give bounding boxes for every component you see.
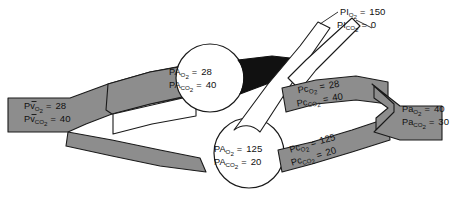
venous-line2-eq: = <box>50 114 55 124</box>
alv-top-line2-eq: = <box>196 80 201 90</box>
alv-top-line1-eq: = <box>192 67 197 77</box>
alv-bot-line1-symbol: PA <box>214 144 226 154</box>
alv-bot-line1-value: 125 <box>246 143 262 154</box>
figure-canvas: PIO2=150 PICO2=0 PvO2=28 PvCO2=40 PAO2=2… <box>0 0 450 212</box>
alv-bot-line2-eq: = <box>241 157 246 167</box>
alv-bot-line2-sub: CO <box>226 161 235 168</box>
vq-mismatch-diagram: PIO2=150 PICO2=0 PvO2=28 PvCO2=40 PAO2=2… <box>0 0 450 212</box>
venous-line1-sub2: 2 <box>40 107 44 114</box>
inspired-line1-sub2: 2 <box>354 13 358 20</box>
art-line2-value: 30 <box>438 116 449 127</box>
cap-top-line2-value: 40 <box>331 90 343 103</box>
inspired-line1-value: 150 <box>369 6 385 17</box>
alv-bot-line2-sub2: 2 <box>235 163 239 170</box>
art-line2-eq: = <box>429 117 434 127</box>
art-line1-sub2: 2 <box>418 110 422 117</box>
alv-top-line2-sub2: 2 <box>190 86 194 93</box>
inspired-leader-line-1 <box>320 12 338 24</box>
venous-line2-sub: CO <box>35 118 44 125</box>
inspired-line1-symbol: PI <box>340 7 349 17</box>
alv-top-line1-symbol: PA <box>169 67 181 77</box>
venous-line1-eq: = <box>46 101 51 111</box>
venous-line1-value: 28 <box>55 100 66 111</box>
inspired-line2-symbol: PI <box>337 20 346 30</box>
alv-top-line1-value: 28 <box>201 66 212 77</box>
venous-line2-symbol: Pv <box>24 114 35 124</box>
inspired-line1-eq: = <box>360 7 365 17</box>
art-line1-value: 40 <box>434 103 445 114</box>
art-line2-sub2: 2 <box>423 123 427 130</box>
alv-bot-line1-eq: = <box>237 144 242 154</box>
art-line2-sub: CO <box>413 121 422 128</box>
inspired-line2-sub2: 2 <box>355 26 359 33</box>
alv-bot-line2-value: 20 <box>251 156 262 167</box>
art-line1-eq: = <box>425 104 430 114</box>
venous-line1-symbol: Pv <box>24 101 35 111</box>
alv-top-line1-sub2: 2 <box>185 73 189 80</box>
alv-bot-line1-sub2: 2 <box>230 150 234 157</box>
venous-line2-sub2: 2 <box>44 120 48 127</box>
lower-capillary-limb <box>66 132 206 172</box>
cap-top-line1-value: 28 <box>328 78 340 91</box>
label-inspired-gas: PIO2=150 PICO2=0 <box>337 6 385 33</box>
inspired-line2-sub: CO <box>346 24 355 31</box>
inspired-line2-eq: = <box>361 20 366 30</box>
svg-text:PIO2=150: PIO2=150 <box>340 6 385 20</box>
alv-bot-line2-symbol: PA <box>214 157 226 167</box>
venous-line2-value: 40 <box>60 113 71 124</box>
inspired-line2-value: 0 <box>371 19 376 30</box>
alv-top-line2-symbol: PA <box>169 80 181 90</box>
alv-top-line2-sub: CO <box>181 84 190 91</box>
alv-top-line2-value: 40 <box>206 79 217 90</box>
